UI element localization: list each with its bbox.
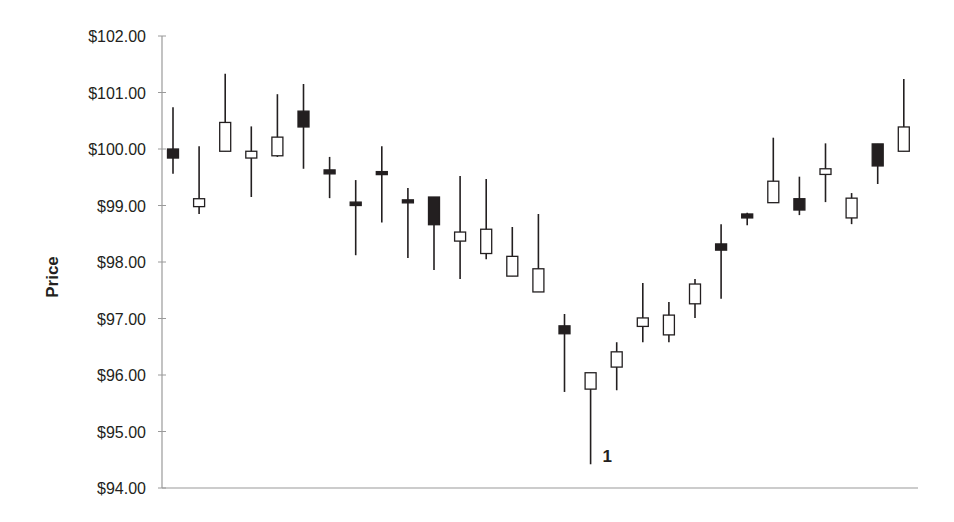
- candle-body-bearish: [742, 214, 753, 218]
- candle: [768, 138, 779, 203]
- candle: [559, 314, 570, 392]
- y-tick-label: $99.00: [97, 198, 146, 215]
- candles-group: [168, 74, 910, 464]
- candle-body-bearish: [872, 144, 883, 166]
- candle: [585, 373, 596, 465]
- candle: [350, 180, 361, 255]
- candle-body-bearish: [298, 111, 309, 127]
- candle-body-bearish: [168, 149, 179, 158]
- y-tick-label: $102.00: [88, 28, 146, 45]
- candle: [690, 279, 701, 318]
- candle-body-bullish: [768, 181, 779, 202]
- candle: [429, 197, 440, 270]
- candle: [611, 342, 622, 390]
- candle: [376, 146, 387, 222]
- candle: [533, 214, 544, 292]
- candle: [272, 94, 283, 157]
- candle-body-bullish: [820, 169, 831, 175]
- candle-body-bullish: [272, 137, 283, 156]
- candle: [298, 84, 309, 169]
- y-tick-label: $95.00: [97, 424, 146, 441]
- candle-body-bullish: [455, 232, 466, 241]
- y-tick-label: $98.00: [97, 254, 146, 271]
- annotation-label: 1: [603, 447, 612, 466]
- y-axis: $94.00$95.00$96.00$97.00$98.00$99.00$100…: [88, 28, 166, 497]
- candle-body-bullish: [898, 127, 909, 151]
- candle: [455, 176, 466, 279]
- y-axis-title: Price: [43, 256, 62, 298]
- candle: [663, 302, 674, 342]
- candle-body-bearish: [429, 197, 440, 225]
- candle-body-bullish: [533, 269, 544, 292]
- candle-body-bullish: [846, 198, 857, 218]
- candle-body-bullish: [611, 352, 622, 367]
- candle-body-bearish: [559, 326, 570, 334]
- y-tick-label: $96.00: [97, 367, 146, 384]
- candle-body-bearish: [402, 200, 413, 203]
- candle-body-bearish: [324, 170, 335, 174]
- candle: [742, 213, 753, 225]
- candle-body-bullish: [690, 284, 701, 304]
- candle-body-bullish: [637, 318, 648, 326]
- candle-body-bullish: [585, 373, 596, 389]
- candle: [168, 107, 179, 174]
- candle-body-bearish: [794, 199, 805, 210]
- candle: [402, 188, 413, 258]
- candle: [220, 74, 231, 151]
- y-tick-label: $101.00: [88, 85, 146, 102]
- y-tick-label: $100.00: [88, 141, 146, 158]
- candle: [846, 193, 857, 224]
- candle: [820, 143, 831, 202]
- candle-body-bullish: [246, 151, 257, 158]
- candlestick-chart: $94.00$95.00$96.00$97.00$98.00$99.00$100…: [0, 0, 954, 522]
- candle-body-bearish: [350, 202, 361, 205]
- candle: [898, 79, 909, 151]
- annotations-group: 1: [603, 447, 612, 466]
- candle: [481, 179, 492, 259]
- candle-body-bearish: [376, 172, 387, 175]
- candle-body-bearish: [716, 244, 727, 250]
- candle: [716, 224, 727, 299]
- candle: [637, 283, 648, 342]
- candle: [194, 146, 205, 214]
- candle: [507, 227, 518, 276]
- candle-body-bullish: [663, 315, 674, 335]
- candle-body-bullish: [481, 229, 492, 253]
- candle: [246, 126, 257, 197]
- candle: [794, 177, 805, 215]
- y-tick-label: $94.00: [97, 480, 146, 497]
- candle: [872, 144, 883, 184]
- candle-body-bullish: [507, 256, 518, 276]
- candle-body-bullish: [220, 122, 231, 151]
- y-tick-label: $97.00: [97, 311, 146, 328]
- candle: [324, 157, 335, 198]
- candle-body-bullish: [194, 199, 205, 207]
